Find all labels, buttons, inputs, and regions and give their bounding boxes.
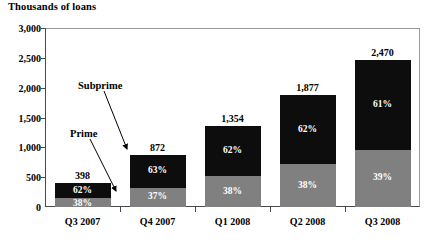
bar-segment-label-subprime: 62% [280, 124, 336, 134]
bar-segment-label-prime: 39% [355, 172, 411, 182]
bar-total-label: 1,354 [191, 113, 275, 124]
bar-group[interactable]: 2,47061%39% [355, 60, 411, 207]
bar-segment-subprime[interactable]: 62% [55, 183, 111, 198]
x-axis-tick-label: Q1 2008 [215, 216, 250, 227]
bar-segment-label-subprime: 62% [55, 185, 111, 195]
x-axis-tick-mark [195, 207, 196, 212]
bar-segment-label-subprime: 63% [130, 165, 186, 175]
annotation-label-prime: Prime [70, 128, 97, 139]
x-axis-tick-label: Q4 2007 [140, 216, 175, 227]
y-axis-tick-label: 1,500 [5, 112, 41, 123]
chart-axis-title: Thousands of loans [8, 1, 96, 12]
bar-segment-label-prime: 38% [55, 198, 111, 208]
bar-segment-label-prime: 38% [205, 186, 261, 196]
bar-segment-prime[interactable]: 37% [130, 188, 186, 207]
bar-segment-label-subprime: 62% [205, 145, 261, 155]
x-axis-tick-label: Q2 2008 [290, 216, 325, 227]
bar-total-label: 1,877 [266, 82, 350, 93]
y-axis-tick-label: 0 [5, 202, 41, 213]
y-axis-tick-label: 2,500 [5, 52, 41, 63]
bar-segment-label-subprime: 61% [355, 99, 411, 109]
bar-group[interactable]: 1,35462%38% [205, 126, 261, 207]
y-axis-tick-label: 1,000 [5, 142, 41, 153]
y-axis-tick-label: 3,000 [5, 23, 41, 34]
bar-segment-subprime[interactable]: 62% [280, 95, 336, 164]
y-axis-tick-label: 500 [5, 172, 41, 183]
x-axis-tick-mark [120, 207, 121, 212]
bar-segment-label-prime: 38% [280, 180, 336, 190]
annotation-label-subprime: Subprime [78, 80, 122, 91]
bar-segment-subprime[interactable]: 61% [355, 60, 411, 150]
bar-group[interactable]: 1,87762%38% [280, 95, 336, 207]
bar-segment-prime[interactable]: 38% [205, 176, 261, 207]
bar-total-label: 398 [41, 170, 125, 181]
x-axis-tick-mark [270, 207, 271, 212]
x-axis-tick-mark [345, 207, 346, 212]
bar-segment-subprime[interactable]: 63% [130, 155, 186, 188]
bar-group[interactable]: 87263%37% [130, 155, 186, 207]
bars-layer: 39862%38%87263%37%1,35462%38%1,87762%38%… [45, 28, 420, 207]
bar-total-label: 2,470 [341, 47, 425, 58]
bar-segment-prime[interactable]: 39% [355, 150, 411, 207]
bar-total-label: 872 [116, 142, 200, 153]
x-axis-tick-label: Q3 2007 [65, 216, 100, 227]
bar-segment-subprime[interactable]: 62% [205, 126, 261, 176]
bar-segment-prime[interactable]: 38% [280, 164, 336, 207]
bar-segment-label-prime: 37% [130, 191, 186, 201]
x-axis-tick-label: Q3 2008 [365, 216, 400, 227]
bar-group[interactable]: 39862%38% [55, 183, 111, 207]
bar-segment-prime[interactable]: 38% [55, 198, 111, 207]
chart-container: Thousands of loans 3,0002,5002,0001,5001… [0, 0, 428, 242]
y-axis-tick-label: 2,000 [5, 82, 41, 93]
